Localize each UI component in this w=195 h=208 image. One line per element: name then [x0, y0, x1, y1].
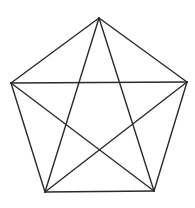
diagonal-BE: [11, 82, 187, 83]
pentagon-diagram: [0, 0, 195, 208]
pentagon-edge-AB: [99, 18, 187, 82]
diagonal-AC: [99, 18, 154, 191]
diagonal-AD: [45, 18, 99, 192]
pentagram-figure: [0, 0, 195, 208]
pentagon-edge-BC: [154, 82, 187, 191]
pentagon-edge-CD: [45, 191, 154, 192]
pentagon-edge-EA: [11, 18, 99, 83]
diagonal-BD: [45, 82, 187, 192]
pentagon-edge-DE: [11, 83, 45, 192]
pentagon-outline: [11, 18, 187, 192]
diagonal-CE: [11, 83, 154, 191]
